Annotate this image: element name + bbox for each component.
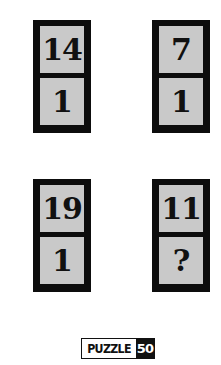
domino-tile-1: 14 1 <box>33 20 91 133</box>
logo-number: 50 <box>136 339 154 358</box>
tile-3-bottom-value: 1 <box>40 237 84 284</box>
puzzle-logo: PUZZLE 50 <box>81 338 155 359</box>
tile-3-top-value: 19 <box>40 185 84 232</box>
tile-1-bottom-value: 1 <box>40 78 84 125</box>
logo-word: PUZZLE <box>86 339 132 358</box>
domino-tile-3: 19 1 <box>33 179 91 292</box>
tile-2-bottom-value: 1 <box>159 78 203 125</box>
domino-tile-2: 7 1 <box>152 20 210 133</box>
domino-tile-4: 11 ? <box>152 179 210 292</box>
tile-4-unknown-value: ? <box>159 237 203 284</box>
tile-4-top-value: 11 <box>159 185 203 232</box>
tile-2-top-value: 7 <box>159 26 203 73</box>
tile-1-top-value: 14 <box>40 26 84 73</box>
